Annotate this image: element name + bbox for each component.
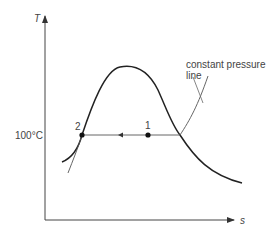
temperature-label-100c: 100°C xyxy=(15,130,43,141)
process-direction-arrow xyxy=(118,133,123,138)
constant-pressure-line xyxy=(68,76,208,173)
x-axis-label: s xyxy=(240,215,245,226)
annotation-text-line-1: constant pressure xyxy=(186,59,266,70)
saturation-dome-curve xyxy=(62,66,242,183)
point-1-label: 1 xyxy=(145,120,151,131)
ts-diagram: T s 100°C 2 1 constant pressure line xyxy=(0,0,278,239)
point-2-label: 2 xyxy=(75,121,81,132)
y-axis-label: T xyxy=(34,13,41,24)
point-2-marker xyxy=(79,132,84,137)
annotation-text-line-2: line xyxy=(186,70,202,81)
point-1-marker xyxy=(145,132,150,137)
